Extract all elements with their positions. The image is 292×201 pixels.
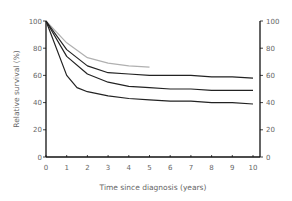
x-tick-label: 8 (209, 164, 213, 172)
y-tick-label: 100 (29, 18, 42, 26)
x-axis-label: Time since diagnosis (years) (99, 183, 207, 192)
right-y-tick-label: 60 (266, 72, 275, 80)
y-tick-label: 20 (33, 126, 42, 134)
right-y-tick-label: 80 (266, 45, 275, 53)
y-tick-label: 60 (33, 72, 42, 80)
survival-chart: 020406080100020406080100012345678910 Tim… (0, 0, 292, 201)
x-tick-label: 2 (85, 164, 89, 172)
y-tick-label: 80 (33, 45, 42, 53)
right-y-tick-label: 100 (266, 18, 279, 26)
right-y-tick-label: 20 (266, 126, 275, 134)
series-line-curve-3 (46, 21, 253, 104)
x-tick-label: 3 (106, 164, 110, 172)
x-tick-label: 0 (44, 164, 48, 172)
axes: 020406080100020406080100012345678910 (29, 18, 280, 173)
series-lines (46, 21, 253, 104)
series-line-curve-2 (46, 21, 253, 90)
y-tick-label: 40 (33, 99, 42, 107)
x-tick-label: 10 (249, 164, 258, 172)
right-y-tick-label: 40 (266, 99, 275, 107)
x-tick-label: 4 (127, 164, 132, 172)
x-tick-label: 5 (147, 164, 151, 172)
x-tick-label: 1 (64, 164, 68, 172)
x-tick-label: 7 (189, 164, 193, 172)
x-tick-label: 6 (168, 164, 173, 172)
y-tick-label: 0 (38, 154, 42, 162)
x-tick-label: 9 (230, 164, 234, 172)
y-axis-label: Relative survival (%) (12, 50, 21, 127)
right-y-tick-label: 0 (266, 154, 270, 162)
